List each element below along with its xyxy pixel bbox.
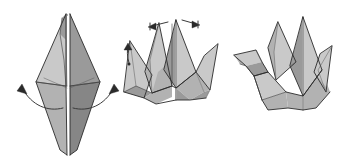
f1-centre-gap <box>67 16 69 155</box>
origami-diagram-canvas: Origami Crane Folding Diagram paper cran… <box>0 0 347 165</box>
origami-diagram-root: Origami Crane Folding Diagram paper cran… <box>0 0 347 165</box>
f2-arrow-head-anchor <box>128 63 131 66</box>
